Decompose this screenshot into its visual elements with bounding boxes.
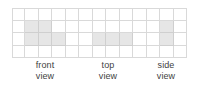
grid-cell-shaded (25, 33, 38, 46)
cell-grid (12, 8, 187, 58)
grid-cell (106, 46, 119, 59)
grid-cell (147, 33, 160, 46)
grid-cell (12, 33, 25, 46)
grid-cell (12, 21, 25, 34)
grid-cell (12, 46, 25, 59)
grid-cell (25, 8, 38, 21)
grid-cell (93, 46, 106, 59)
grid-cell (93, 21, 106, 34)
grid-cell (79, 46, 92, 59)
grid-cell (120, 46, 133, 59)
grid-cell (25, 46, 38, 59)
grid-cell-shaded (93, 33, 106, 46)
grid-cell (12, 8, 25, 21)
label-side-view: side view (146, 60, 186, 82)
grid-cell (52, 46, 65, 59)
label-top-view-line1: top (88, 60, 128, 71)
grid-cell (174, 33, 187, 46)
grid-cell (120, 21, 133, 34)
grid-cell (66, 21, 79, 34)
grid-cell (52, 8, 65, 21)
grid-cell-shaded (160, 33, 173, 46)
grid-cell (160, 46, 173, 59)
grid-cell (79, 8, 92, 21)
grid-cell-shaded (39, 33, 52, 46)
grid-cell (106, 21, 119, 34)
grid-cell (133, 33, 146, 46)
grid-cell (174, 46, 187, 59)
grid-cell (66, 8, 79, 21)
orthographic-views-figure: front view top view side view (0, 0, 199, 91)
grid-cell (39, 8, 52, 21)
grid-cell (133, 21, 146, 34)
grid-cell (39, 46, 52, 59)
label-top-view: top view (88, 60, 128, 82)
grid-cell (93, 8, 106, 21)
grid-cell (120, 8, 133, 21)
grid-cell (174, 8, 187, 21)
grid-cell-shaded (39, 21, 52, 34)
grid-cell (160, 8, 173, 21)
grid-cell (79, 33, 92, 46)
grid-cell (52, 21, 65, 34)
grid-cell (79, 21, 92, 34)
grid-cell-shaded (25, 21, 38, 34)
grid-cell (133, 46, 146, 59)
grid-container (12, 8, 187, 58)
label-top-view-line2: view (88, 71, 128, 82)
grid-cell-shaded (106, 33, 119, 46)
grid-cell-shaded (120, 33, 133, 46)
label-front-view-line1: front (22, 60, 68, 71)
grid-cell (66, 33, 79, 46)
grid-cell (106, 8, 119, 21)
grid-cell (66, 46, 79, 59)
grid-cell (147, 46, 160, 59)
label-front-view-line2: view (22, 71, 68, 82)
label-side-view-line1: side (146, 60, 186, 71)
grid-cell (133, 8, 146, 21)
grid-cell (147, 8, 160, 21)
label-front-view: front view (22, 60, 68, 82)
label-side-view-line2: view (146, 71, 186, 82)
grid-cell (147, 21, 160, 34)
grid-cell-shaded (52, 33, 65, 46)
grid-cell-shaded (160, 21, 173, 34)
grid-cell (174, 21, 187, 34)
